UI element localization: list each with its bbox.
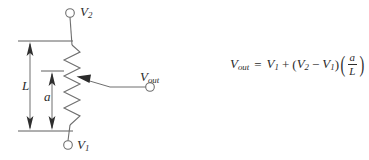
circuit-schematic	[0, 0, 369, 160]
wiper-arrowhead-icon	[77, 75, 92, 84]
equation-term3: V1	[322, 56, 334, 72]
figure-canvas: V2 V1 Vout L a Vout = V1 + ( V2 − V1 ) (…	[0, 0, 369, 160]
equation-fraction-a-over-L: a L	[347, 52, 358, 77]
fraction-denominator: L	[349, 66, 355, 78]
equation-fraction-close-paren: )	[359, 53, 364, 76]
equation-minus-sign: −	[309, 57, 322, 73]
equation-term1: V1	[267, 56, 279, 72]
equation-equals-sign: =	[249, 57, 266, 73]
equation-term2: V2	[297, 56, 309, 72]
terminal-label-vout: Vout	[140, 70, 159, 85]
dimension-label-a: a	[44, 90, 51, 103]
equation-close-paren: )	[335, 57, 339, 73]
equation-plus-sign: +	[279, 57, 292, 73]
potentiometer-resistor-zigzag	[64, 45, 80, 125]
wiper-arm-diagonal	[88, 81, 110, 88]
dimension-label-L: L	[22, 79, 29, 92]
vout-equation: Vout = V1 + ( V2 − V1 ) ( a L )	[230, 52, 365, 77]
equation-fraction-open-paren: (	[341, 53, 346, 76]
lead-wire-v1	[68, 125, 70, 141]
terminal-label-v1: V1	[77, 138, 89, 153]
terminal-label-v2: V2	[80, 5, 92, 20]
equation-lhs: Vout	[230, 56, 249, 72]
terminal-node-v1	[64, 141, 73, 150]
terminal-node-v2	[66, 9, 75, 18]
fraction-numerator: a	[350, 52, 356, 64]
